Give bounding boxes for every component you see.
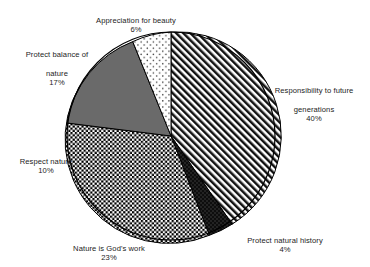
pie-label-respect-nature: Respect nature 10% (2, 147, 90, 185)
pie-label-text: Protect balance of (26, 50, 89, 59)
pie-label-text: Responsibility to future (275, 86, 354, 95)
pie-label-value: 17% (5, 78, 109, 88)
pie-label-protect-natural-history: Protect natural history 4% (224, 226, 346, 264)
pie-label-value: 40% (262, 114, 366, 124)
pie-label-text: Respect nature (20, 157, 73, 166)
pie-label-responsibility-to-future-generations: Responsibility to future generations 40% (262, 76, 366, 134)
pie-label-value: 6% (78, 25, 194, 35)
pie-label-protect-balance-of-nature: Protect balance of nature 17% (5, 40, 109, 98)
pie-label-value: 10% (2, 166, 90, 176)
pie-label-text-2: generations (294, 105, 335, 114)
pie-label-text: Protect natural history (247, 236, 323, 245)
pie-label-value: 4% (224, 245, 346, 255)
pie-label-text-2: nature (46, 69, 68, 78)
pie-label-value: 23% (44, 253, 174, 263)
pie-label-nature-is-gods-work: Nature is God's work 23% (44, 234, 174, 267)
pie-label-text: Appreciation for beauty (96, 16, 176, 25)
pie-chart: Appreciation for beauty 6% Protect balan… (0, 0, 370, 267)
pie-label-appreciation-for-beauty: Appreciation for beauty 6% (78, 6, 194, 44)
pie-label-text: Nature is God's work (73, 244, 145, 253)
